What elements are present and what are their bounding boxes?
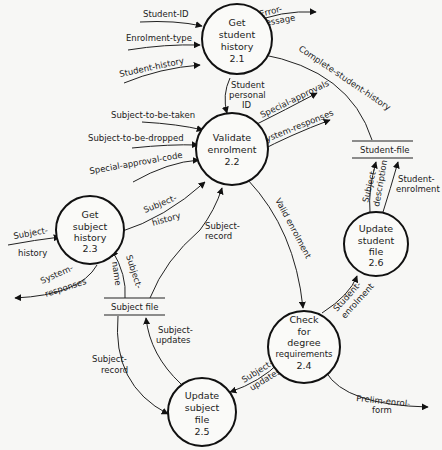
- flow-subject-history-in: Subject- history: [8, 225, 60, 258]
- svg-text:2.2: 2.2: [224, 156, 239, 167]
- svg-text:history: history: [151, 210, 182, 228]
- process-2-6-update-student-file: Update student file 2.6: [344, 212, 408, 276]
- svg-text:Subject-: Subject-: [13, 225, 49, 241]
- data-flow-diagram: Student-ID Enrolment-type Student-histor…: [0, 0, 442, 450]
- process-2-3-get-subject-history: Get subject history 2.3: [56, 196, 124, 264]
- flow-subject-updates-25-to-file: Subject- updates: [146, 318, 193, 384]
- svg-text:form: form: [372, 405, 392, 415]
- svg-text:ID: ID: [242, 100, 252, 110]
- flow-complete-student-history: Complete-student-history: [260, 43, 393, 140]
- svg-text:record: record: [101, 365, 128, 375]
- flow-subject-description: Subject- description: [360, 159, 389, 212]
- flow-system-responses-23: System- responses: [15, 263, 97, 299]
- flow-student-enrolment-to-file: Student- enrolment: [383, 162, 440, 212]
- svg-text:Valid enrolment: Valid enrolment: [273, 196, 314, 260]
- svg-text:subject: subject: [185, 402, 220, 413]
- flow-subject-to-be-taken: Subject-to-be-taken: [111, 110, 203, 130]
- svg-text:student: student: [219, 29, 256, 40]
- svg-text:record: record: [205, 231, 232, 241]
- flow-student-history-in: Student-history: [118, 56, 200, 83]
- svg-text:enrolment: enrolment: [396, 184, 440, 194]
- svg-text:subject: subject: [73, 221, 108, 232]
- svg-text:Special-approval-code: Special-approval-code: [89, 150, 184, 176]
- svg-text:2.1: 2.1: [229, 53, 244, 64]
- svg-text:Check: Check: [289, 314, 319, 325]
- flow-label: Student-ID: [143, 9, 189, 19]
- data-store-student-file: Student-file: [352, 141, 413, 158]
- svg-text:requirements: requirements: [276, 349, 333, 359]
- svg-text:Subject-: Subject-: [205, 221, 240, 231]
- svg-text:Update: Update: [359, 223, 394, 234]
- flow-subject-to-be-dropped: Subject-to-be-dropped: [88, 133, 198, 148]
- process-2-5-update-subject-file: Update subject file 2.5: [168, 378, 236, 446]
- data-store-subject-file: Subject file: [104, 298, 165, 315]
- svg-text:Subject file: Subject file: [111, 302, 158, 312]
- svg-text:Subject-to-be-taken: Subject-to-be-taken: [111, 110, 195, 120]
- svg-text:Validate: Validate: [213, 132, 251, 143]
- flow-subject-history-23-to-22: Subject- history: [120, 182, 205, 232]
- svg-text:file: file: [195, 414, 210, 425]
- process-2-4-check-degree-requirements: Check for degree requirements 2.4: [268, 311, 340, 383]
- svg-text:Enrolment-type: Enrolment-type: [126, 33, 192, 43]
- svg-text:Complete-student-history: Complete-student-history: [297, 43, 393, 112]
- svg-text:Update: Update: [185, 390, 220, 401]
- svg-text:degree: degree: [287, 337, 320, 348]
- svg-text:Student-file: Student-file: [360, 145, 409, 155]
- process-2-2-validate-enrolment: Validate enrolment 2.2: [196, 113, 268, 185]
- flow-student-enrolment-24-to-26: Student- enrolment: [322, 276, 376, 320]
- flow-subject-record-to-25: Subject- record: [92, 316, 168, 414]
- svg-text:updates: updates: [156, 335, 191, 345]
- flow-enrolment-type: Enrolment-type: [126, 33, 200, 50]
- flow-subject-name: Subject- name: [110, 250, 144, 298]
- svg-text:2.4: 2.4: [296, 360, 311, 371]
- svg-text:personal: personal: [229, 90, 266, 100]
- svg-text:2.6: 2.6: [368, 257, 383, 268]
- svg-text:name: name: [110, 261, 123, 286]
- svg-text:2.3: 2.3: [82, 243, 97, 254]
- flow-prelim-enrol-form: Prelim-enrol- form: [326, 372, 428, 415]
- svg-text:enrolment: enrolment: [208, 144, 257, 155]
- svg-text:Subject-: Subject-: [124, 254, 144, 290]
- svg-text:history: history: [18, 248, 47, 258]
- flow-special-approval-code: Special-approval-code: [89, 150, 199, 182]
- svg-text:Student-history: Student-history: [118, 56, 184, 79]
- svg-text:file: file: [369, 246, 384, 257]
- flow-student-personal-id: Student personal ID: [225, 78, 266, 113]
- svg-text:Get: Get: [229, 17, 246, 28]
- svg-text:history: history: [74, 232, 107, 243]
- svg-text:history: history: [221, 41, 254, 52]
- svg-text:Get: Get: [82, 209, 99, 220]
- svg-text:Subject-to-be-dropped: Subject-to-be-dropped: [88, 133, 184, 143]
- svg-text:Student: Student: [231, 80, 265, 90]
- svg-text:Subject-: Subject-: [158, 325, 193, 335]
- svg-text:2.5: 2.5: [194, 426, 209, 437]
- svg-text:for: for: [297, 326, 310, 337]
- flow-student-id: Student-ID: [140, 9, 202, 26]
- process-2-1-get-student-history: Get student history 2.1: [202, 4, 272, 74]
- svg-text:Subject-: Subject-: [92, 354, 127, 364]
- flow-valid-enrolment: Valid enrolment: [248, 180, 314, 308]
- svg-text:Student-: Student-: [398, 174, 435, 184]
- svg-text:student: student: [358, 235, 395, 246]
